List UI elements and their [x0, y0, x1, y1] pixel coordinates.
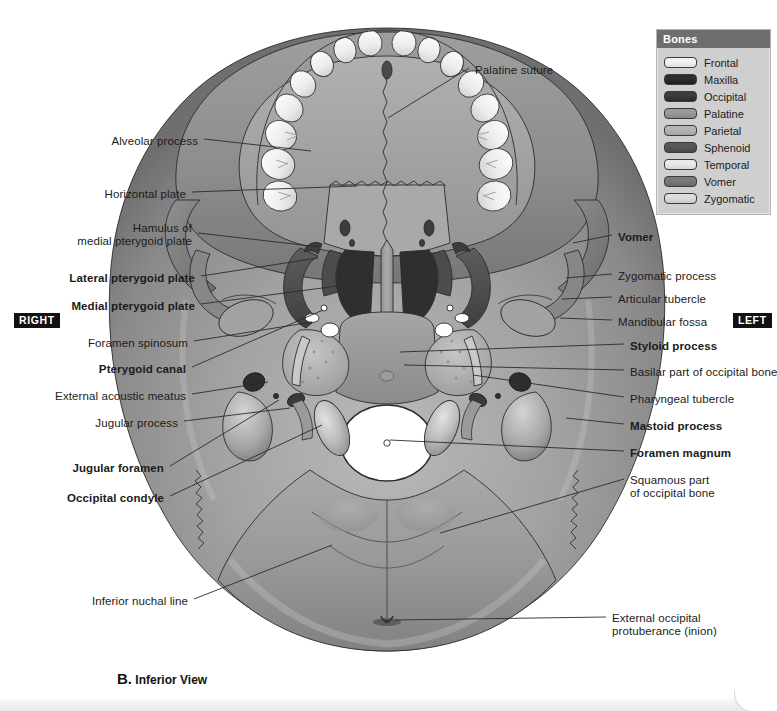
- label-foramen-magnum: Foramen magnum: [630, 447, 731, 460]
- legend-row-parietal: Parietal: [664, 122, 764, 139]
- orientation-badge-right: RIGHT: [14, 313, 60, 328]
- label-pterygoid-canal: Pterygoid canal: [99, 363, 186, 376]
- legend-swatch-zygomatic: [664, 193, 697, 204]
- legend-row-frontal: Frontal: [664, 54, 764, 71]
- legend-row-occipital: Occipital: [664, 88, 764, 105]
- legend-label-vomer: Vomer: [704, 176, 736, 188]
- legend-label-zygomatic: Zygomatic: [704, 193, 755, 205]
- label-pharyngeal-tubercle: Pharyngeal tubercle: [630, 393, 734, 406]
- label-alveolar-process: Alveolar process: [111, 135, 198, 148]
- label-external-occipital-prot: External occipital protuberance (inion): [612, 612, 717, 638]
- orientation-badge-left: LEFT: [733, 313, 772, 328]
- legend-label-occipital: Occipital: [704, 91, 746, 103]
- legend-label-palatine: Palatine: [704, 108, 744, 120]
- legend-swatch-frontal: [664, 57, 697, 68]
- legend-swatch-parietal: [664, 125, 697, 136]
- label-jugular-foramen: Jugular foramen: [72, 462, 164, 475]
- label-jugular-process: Jugular process: [95, 417, 178, 430]
- label-articular-tubercle: Articular tubercle: [618, 293, 706, 306]
- legend-items: FrontalMaxillaOccipitalPalatineParietalS…: [657, 48, 770, 214]
- label-palatine-suture: Palatine suture: [475, 64, 553, 77]
- legend-swatch-maxilla: [664, 74, 697, 85]
- label-horizontal-plate: Horizontal plate: [104, 188, 186, 201]
- legend-swatch-temporal: [664, 159, 697, 170]
- label-vomer: Vomer: [618, 231, 653, 244]
- legend-row-temporal: Temporal: [664, 156, 764, 173]
- label-zygomatic-process: Zygomatic process: [618, 270, 716, 283]
- label-lateral-pterygoid-plate: Lateral pterygoid plate: [69, 272, 195, 285]
- legend-row-maxilla: Maxilla: [664, 71, 764, 88]
- label-squamous-part-occipital: Squamous part of occipital bone: [630, 474, 715, 500]
- legend-label-sphenoid: Sphenoid: [704, 142, 751, 154]
- label-hamulus-medial-pterygoid: Hamulus of medial pterygoid plate: [77, 222, 192, 248]
- page-footer-strip: [0, 697, 775, 711]
- legend-label-maxilla: Maxilla: [704, 74, 738, 86]
- caption-text: Inferior View: [135, 673, 207, 687]
- caption-letter: B.: [117, 670, 132, 687]
- label-inferior-nuchal-line: Inferior nuchal line: [92, 595, 188, 608]
- legend-label-temporal: Temporal: [704, 159, 749, 171]
- legend-swatch-sphenoid: [664, 142, 697, 153]
- label-mandibular-fossa: Mandibular fossa: [618, 316, 707, 329]
- legend-row-zygomatic: Zygomatic: [664, 190, 764, 207]
- legend-swatch-palatine: [664, 108, 697, 119]
- label-occipital-condyle: Occipital condyle: [67, 492, 164, 505]
- legend-swatch-vomer: [664, 176, 697, 187]
- label-external-acoustic-meatus: External acoustic meatus: [55, 390, 186, 403]
- label-styloid-process: Styloid process: [630, 340, 717, 353]
- legend-row-sphenoid: Sphenoid: [664, 139, 764, 156]
- label-foramen-spinosum: Foramen spinosum: [88, 337, 188, 350]
- label-basilar-part-occipital: Basilar part of occipital bone: [630, 366, 777, 379]
- legend-row-vomer: Vomer: [664, 173, 764, 190]
- legend-label-parietal: Parietal: [704, 125, 741, 137]
- figure-caption: B. Inferior View: [117, 670, 207, 687]
- label-mastoid-process: Mastoid process: [630, 420, 722, 433]
- legend-title: Bones: [657, 30, 770, 48]
- legend-swatch-occipital: [664, 91, 697, 102]
- legend-row-palatine: Palatine: [664, 105, 764, 122]
- label-medial-pterygoid-plate: Medial pterygoid plate: [71, 300, 195, 313]
- legend-label-frontal: Frontal: [704, 57, 738, 69]
- bones-legend: Bones FrontalMaxillaOccipitalPalatinePar…: [656, 29, 771, 215]
